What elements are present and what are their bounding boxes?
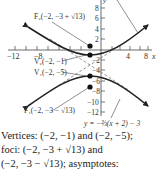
- x-tick-neg12: −12: [7, 52, 20, 61]
- x-axis-label: x: [151, 52, 156, 61]
- vertex-v1-point: [87, 73, 92, 78]
- hyperbola-graph: −12 −8 4 8 x y 8 6 4 2 −2 −4 −6 −8 −10 −…: [0, 0, 158, 130]
- label-v1: V₁(−2, −5): [34, 68, 67, 77]
- upper-branch: [28, 25, 148, 55]
- caption-line-2: foci: (−2, −3 + √13) and: [1, 143, 158, 157]
- caption: Vertices: (−2, −1) and (−2, −5); foci: (…: [1, 129, 158, 171]
- y-tick-4: 4: [95, 25, 99, 34]
- x-tick-8: 8: [144, 52, 148, 61]
- y-tick-8: 8: [95, 4, 99, 13]
- vertex-v2-point: [87, 52, 92, 57]
- caption-line-1: Vertices: (−2, −1) and (−2, −5);: [1, 129, 158, 143]
- label-v2: V₂(−2, −1): [34, 57, 67, 66]
- y-tick-neg2: −2: [92, 56, 100, 65]
- label-f1: F₁(−2, −3 − √13): [24, 106, 76, 115]
- x-tick-4: 4: [126, 52, 130, 61]
- y-tick-neg12: −12: [87, 108, 99, 117]
- y-tick-2: 2: [95, 35, 99, 44]
- y-axis-label: y: [102, 0, 107, 5]
- label-asymptote: y = −⅔(x + 2) − 3: [83, 119, 141, 128]
- focus-f1-point: [87, 84, 92, 89]
- label-f2: F₂(−2, −3 + √13): [34, 12, 86, 21]
- focus-f2-point: [87, 43, 92, 48]
- y-axis: y 8 6 4 2 −2 −4 −6 −8 −10 −12: [87, 0, 107, 117]
- y-tick-6: 6: [95, 14, 99, 23]
- y-tick-neg6: −6: [92, 77, 100, 86]
- y-tick-neg8: −8: [92, 87, 100, 96]
- y-tick-neg10: −10: [87, 98, 99, 107]
- caption-line-3: (−2, −3 − √13); asymptotes:: [1, 157, 158, 171]
